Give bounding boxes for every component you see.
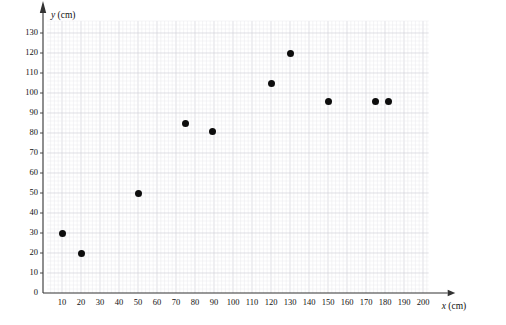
y-tick-label: 110: [26, 67, 38, 77]
y-axis-label-unit: (cm): [55, 10, 75, 20]
x-tick-label: 200: [409, 297, 437, 307]
y-tick-label: 50: [30, 187, 39, 197]
y-tick-label: 20: [30, 247, 39, 257]
y-tick-label: 10: [30, 267, 39, 277]
data-point: [325, 98, 332, 105]
data-point: [385, 98, 392, 105]
y-tick-label: 70: [30, 147, 39, 157]
data-point: [135, 190, 142, 197]
y-tick-label: 90: [30, 107, 39, 117]
y-axis-label: y (cm): [51, 10, 76, 20]
y-tick-label: 80: [30, 127, 39, 137]
scatter-chart: 0102030405060708090100110120130102030405…: [0, 0, 506, 325]
x-axis-label: x (cm): [442, 301, 467, 311]
data-point: [287, 50, 294, 57]
y-tick-label: 120: [25, 47, 38, 57]
y-tick-label: 30: [30, 227, 39, 237]
y-tick-label: 0: [34, 287, 38, 297]
y-tick-label: 60: [30, 167, 39, 177]
data-point: [182, 120, 189, 127]
data-point: [372, 98, 379, 105]
y-tick-label: 100: [25, 87, 38, 97]
y-tick-label: 130: [25, 27, 38, 37]
data-point: [59, 230, 66, 237]
y-tick-label: 40: [30, 207, 39, 217]
data-point: [209, 128, 216, 135]
data-point: [268, 80, 275, 87]
x-axis-label-unit: (cm): [446, 301, 466, 311]
chart-grid: [0, 0, 506, 325]
data-point: [78, 250, 85, 257]
